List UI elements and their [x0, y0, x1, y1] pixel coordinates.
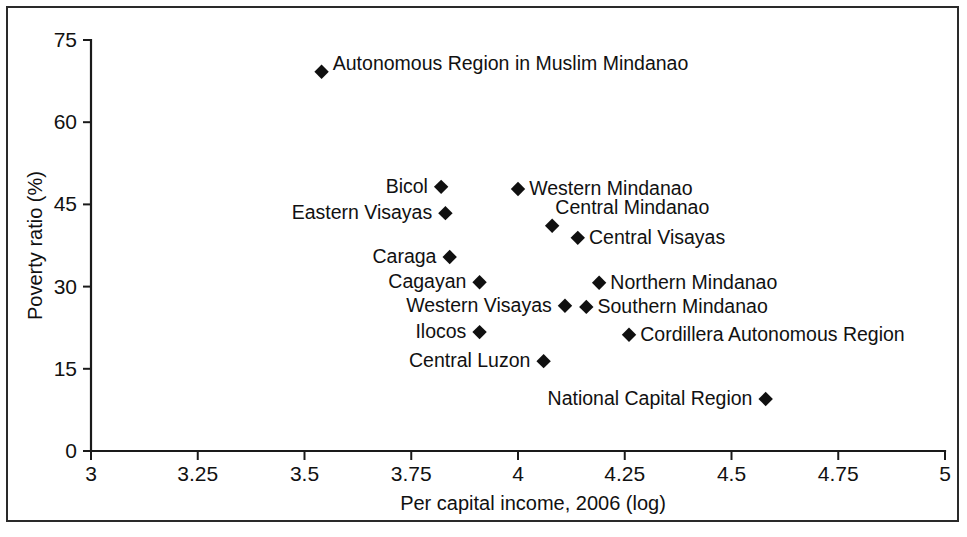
x-tick-label: 3: [85, 462, 97, 485]
diamond-marker-icon: [622, 328, 636, 342]
diamond-marker-icon: [758, 392, 772, 406]
data-point-label: Southern Mindanao: [598, 295, 768, 317]
data-point[interactable]: Cordillera Autonomous Region: [622, 323, 905, 345]
data-point-label: Western Visayas: [406, 294, 552, 316]
diamond-marker-icon: [472, 275, 486, 289]
data-point-label: Caraga: [373, 245, 437, 267]
diamond-marker-icon: [536, 354, 550, 368]
data-point[interactable]: Central Luzon: [409, 349, 551, 371]
data-point[interactable]: Bicol: [386, 175, 449, 197]
data-point-label: Eastern Visayas: [292, 201, 433, 223]
diamond-marker-icon: [592, 276, 606, 290]
data-point[interactable]: Eastern Visayas: [292, 201, 453, 223]
y-tick-label: 75: [54, 28, 77, 51]
diamond-marker-icon: [579, 300, 593, 314]
data-point[interactable]: Autonomous Region in Muslim Mindanao: [314, 52, 688, 79]
data-point-label: Autonomous Region in Muslim Mindanao: [333, 52, 689, 74]
y-tick-label: 45: [54, 192, 77, 215]
diamond-marker-icon: [438, 206, 452, 220]
axis-spines: [91, 40, 945, 451]
x-tick-label: 3.25: [177, 462, 218, 485]
data-point[interactable]: Western Visayas: [406, 294, 572, 316]
y-tick-label: 0: [65, 439, 77, 462]
x-tick-label: 5: [939, 462, 951, 485]
data-point[interactable]: Cagayan: [388, 270, 486, 292]
data-point[interactable]: Northern Mindanao: [592, 271, 777, 293]
x-tick-label: 4.75: [818, 462, 859, 485]
x-tick-label: 4.5: [717, 462, 746, 485]
data-point-label: Bicol: [386, 175, 428, 197]
x-tick-label: 3.75: [391, 462, 432, 485]
x-tick-label: 4: [512, 462, 524, 485]
scatter-plot-canvas: 0153045607533.253.53.7544.254.54.755Per …: [0, 0, 967, 537]
data-point-label: Ilocos: [415, 320, 466, 342]
data-point[interactable]: Southern Mindanao: [579, 295, 768, 317]
data-point-label: Central Visayas: [589, 226, 725, 248]
data-point-label: National Capital Region: [548, 387, 753, 409]
diamond-marker-icon: [571, 231, 585, 245]
diamond-marker-icon: [472, 325, 486, 339]
figure-container: 0153045607533.253.53.7544.254.54.755Per …: [0, 0, 967, 537]
y-tick-label: 30: [54, 275, 77, 298]
x-tick-label: 3.5: [290, 462, 319, 485]
data-point[interactable]: National Capital Region: [548, 387, 773, 409]
diamond-marker-icon: [434, 180, 448, 194]
x-axis-title: Per capital income, 2006 (log): [400, 492, 666, 514]
x-tick-label: 4.25: [604, 462, 645, 485]
data-point-label: Northern Mindanao: [610, 271, 777, 293]
data-point-label: Central Luzon: [409, 349, 530, 371]
diamond-marker-icon: [511, 182, 525, 196]
diamond-marker-icon: [558, 299, 572, 313]
diamond-marker-icon: [442, 250, 456, 264]
data-point-label: Cagayan: [388, 270, 466, 292]
scatter-plot: 0153045607533.253.53.7544.254.54.755Per …: [0, 0, 967, 537]
diamond-marker-icon: [314, 65, 328, 79]
y-tick-label: 60: [54, 110, 77, 133]
data-point-label: Central Mindanao: [555, 196, 709, 218]
y-axis-title: Poverty ratio (%): [24, 171, 46, 320]
y-tick-label: 15: [54, 357, 77, 380]
diamond-marker-icon: [545, 219, 559, 233]
data-point[interactable]: Central Visayas: [571, 226, 726, 248]
data-point[interactable]: Caraga: [373, 245, 457, 267]
data-point[interactable]: Ilocos: [415, 320, 486, 342]
data-point-label: Cordillera Autonomous Region: [640, 323, 905, 345]
